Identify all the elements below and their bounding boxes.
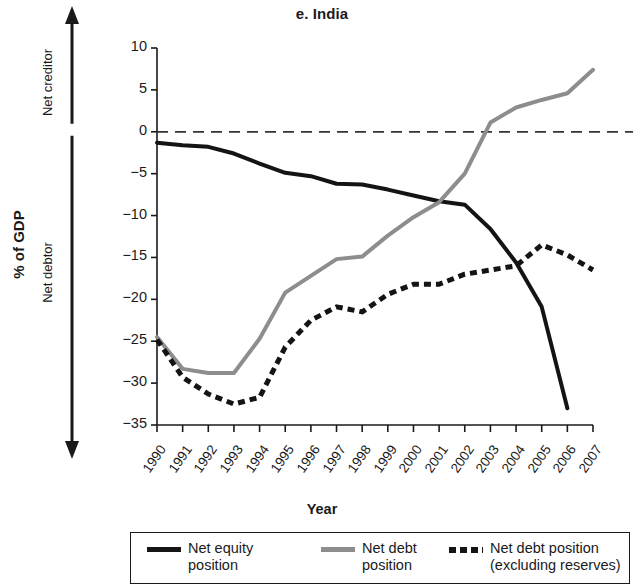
legend: Net equity positionNet debt positionNet … — [130, 532, 630, 584]
x-axis-title: Year — [0, 501, 644, 517]
legend-swatch-2 — [449, 547, 483, 553]
legend-label-0: Net equity position — [188, 540, 253, 574]
arrow-down-head — [65, 441, 79, 459]
legend-swatch-1 — [321, 547, 355, 552]
legend-entry-0[interactable]: Net equity position — [147, 540, 253, 574]
series-line-0 — [157, 143, 567, 409]
legend-label-2: Net debt position (excluding reserves) — [490, 540, 621, 574]
arrow-up-head — [65, 6, 79, 24]
chart-figure: e. India % of GDP Net creditor Net debto… — [0, 0, 644, 585]
legend-entry-2[interactable]: Net debt position (excluding reserves) — [449, 540, 621, 574]
series-line-1 — [157, 70, 593, 373]
legend-swatch-0 — [147, 547, 181, 552]
plot-area — [0, 0, 644, 585]
series-line-2 — [157, 245, 593, 404]
legend-label-1: Net debt position — [362, 540, 417, 574]
legend-entry-1[interactable]: Net debt position — [321, 540, 417, 574]
